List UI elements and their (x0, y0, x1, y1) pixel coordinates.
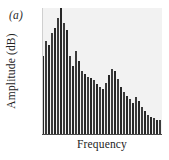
bar (111, 69, 113, 135)
x-axis-label: Frequency (42, 138, 162, 151)
bar (153, 118, 155, 135)
bar (105, 83, 107, 135)
bar (54, 28, 56, 135)
bar (129, 99, 131, 135)
bar (150, 117, 152, 135)
bar (117, 79, 119, 135)
bar (63, 23, 65, 135)
bar (123, 92, 125, 135)
bar (57, 18, 59, 135)
bar (108, 75, 110, 135)
plot-area (42, 8, 162, 135)
bar (99, 87, 101, 135)
bar (135, 97, 137, 135)
bar (114, 71, 116, 135)
bar (96, 84, 98, 135)
bar-series (42, 8, 162, 135)
bar (45, 41, 47, 135)
bar (120, 87, 122, 135)
y-axis-label-container: Amplitude (dB) (0, 8, 22, 134)
bar (87, 77, 89, 135)
bar (66, 30, 68, 135)
y-axis-line (42, 8, 43, 135)
bar (126, 96, 128, 135)
bar (81, 71, 83, 135)
bar (72, 66, 74, 135)
bar (132, 103, 134, 135)
bar (102, 89, 104, 135)
bar (159, 120, 161, 135)
bar (48, 45, 50, 135)
bar (90, 78, 92, 135)
bar (78, 61, 80, 135)
x-axis-line (42, 134, 162, 135)
bar (51, 33, 53, 135)
bar (69, 56, 71, 135)
bar (147, 115, 149, 135)
bar (141, 107, 143, 135)
bar (144, 111, 146, 135)
bar (138, 101, 140, 135)
y-axis-label: Amplitude (dB) (5, 33, 17, 108)
bar (75, 51, 77, 135)
bar (84, 74, 86, 135)
bar (156, 120, 158, 135)
plot-inner (42, 8, 162, 135)
spectrum-figure: (a) Amplitude (dB) Frequency (0, 0, 169, 160)
bar (93, 80, 95, 135)
bar (60, 8, 62, 135)
